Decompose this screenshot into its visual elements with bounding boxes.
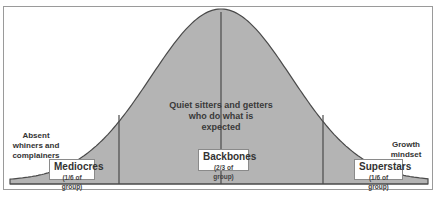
segment-backbones: Backbones (2/3 of group) bbox=[198, 149, 249, 171]
center-description: Quiet sitters and getters who do what is… bbox=[168, 100, 274, 133]
segment-title: Superstars bbox=[359, 161, 398, 173]
segment-subtitle: (2/3 of group) bbox=[203, 163, 244, 181]
segment-subtitle: (1/6 of group) bbox=[54, 173, 90, 191]
right-description: Growth mindset bbox=[386, 140, 426, 160]
segment-subtitle: (1/6 of group) bbox=[359, 173, 398, 191]
left-description: Absent whiners and complainers bbox=[10, 131, 62, 161]
segment-mediocres: Mediocres (1/6 of group) bbox=[49, 159, 95, 180]
segment-title: Mediocres bbox=[54, 161, 90, 173]
segment-title: Backbones bbox=[203, 151, 244, 163]
segment-superstars: Superstars (1/6 of group) bbox=[354, 159, 403, 180]
